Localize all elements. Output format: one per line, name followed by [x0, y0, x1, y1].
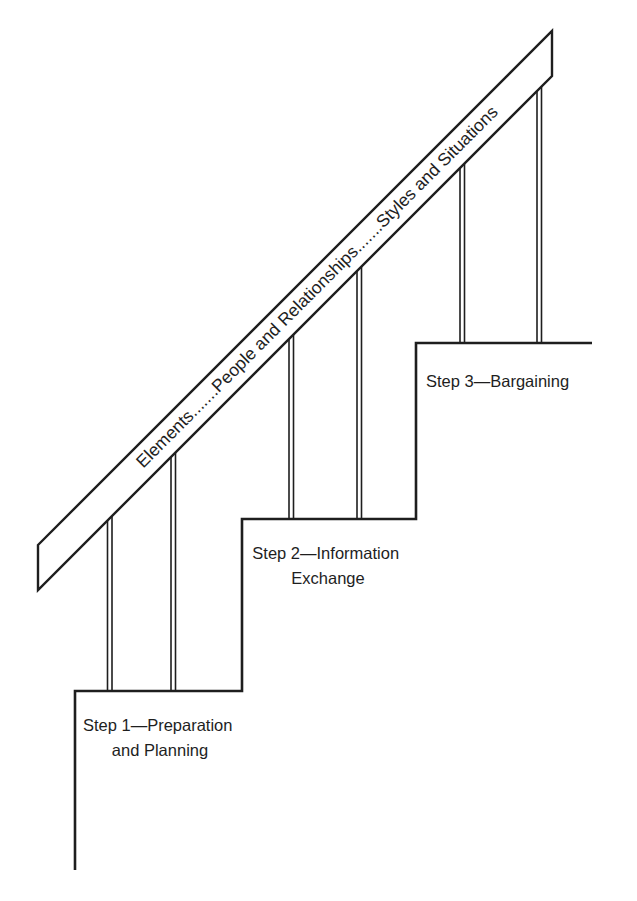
negotiation-staircase-diagram: Elements.......People and Relationships.…	[0, 0, 637, 901]
step-3-label-line1: Step 3—Bargaining	[426, 372, 569, 390]
step-3-label: Step 3—Bargaining	[426, 372, 569, 390]
handrail-label: Elements.......People and Relationships.…	[132, 102, 502, 472]
baluster-step1-b	[171, 451, 176, 691]
step-1-label: Step 1—Preparation and Planning	[83, 716, 237, 759]
baluster-step2-b	[357, 265, 362, 519]
step-1-label-line1: Step 1—Preparation	[83, 716, 233, 734]
staircase-outline	[75, 343, 592, 870]
baluster-step3-a	[460, 162, 465, 343]
step-2-label-line2: Exchange	[291, 569, 364, 587]
baluster-step2-a	[289, 333, 294, 519]
baluster-step3-b	[537, 85, 542, 343]
step-1-label-line2: and Planning	[112, 741, 208, 759]
step-2-label-line1: Step 2—Information	[252, 544, 399, 562]
step-2-label: Step 2—Information Exchange	[252, 544, 403, 587]
baluster-step1-a	[108, 515, 113, 691]
handrail: Elements.......People and Relationships.…	[38, 31, 552, 590]
